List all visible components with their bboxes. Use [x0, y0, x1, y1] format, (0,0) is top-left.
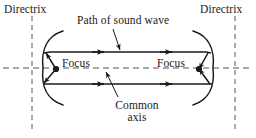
left-focus-label: Focus — [62, 57, 90, 69]
common-axis-label-line2: axis — [110, 111, 164, 123]
ellipse-sound-wave-diagram: Directrix Directrix Path of sound wave F… — [0, 0, 256, 138]
right-focus-dot-icon — [196, 66, 202, 72]
path-label-leader-line-icon — [113, 29, 120, 50]
path-of-sound-wave-label: Path of sound wave — [77, 14, 169, 26]
right-directrix-label: Directrix — [200, 3, 242, 15]
left-directrix-label: Directrix — [4, 3, 46, 15]
common-axis-label-line1: Common — [115, 99, 158, 111]
left-arc-upper-connector — [44, 52, 50, 53]
right-arc-upper-connector — [206, 52, 211, 53]
right-focus-label: Focus — [157, 57, 185, 69]
common-axis-label: Common axis — [110, 99, 164, 123]
left-focus-dot-icon — [53, 66, 59, 72]
